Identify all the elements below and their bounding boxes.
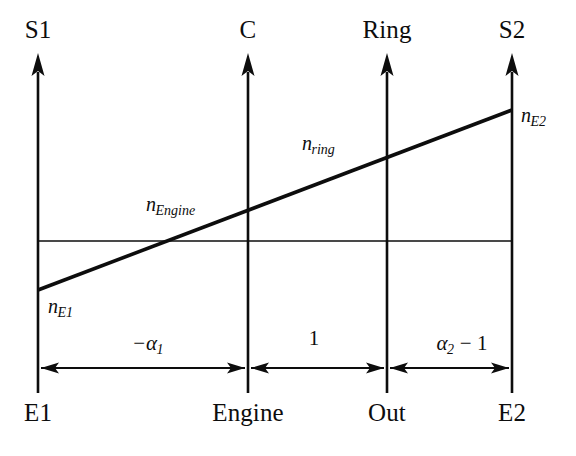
speed-label-n-ring: nring (302, 133, 335, 153)
axis-ring (381, 53, 394, 393)
axis-bottom-label-e2: E2 (498, 400, 526, 425)
speed-label-sub-n-e2: E2 (531, 114, 547, 129)
speed-label-sub-n-engine: Engine (156, 203, 196, 218)
dimension-label-prefix-alpha2minus1: α (437, 331, 448, 355)
dimension-label-alpha1: −α1 (132, 333, 164, 354)
speed-label-base-n-engine: n (146, 193, 156, 215)
dimension-label-sub-alpha1: 1 (157, 342, 164, 357)
lever-diagram-figure: S1 C Ring S2 E1 Engine Out E2 nE1 nEngin… (0, 0, 576, 456)
speed-label-n-engine: nEngine (146, 194, 196, 214)
diagram-canvas (0, 0, 576, 456)
dimension-label-alpha2minus1: α2 − 1 (437, 333, 488, 354)
dimension-label-one: 1 (309, 328, 320, 349)
speed-label-sub-n-ring: ring (312, 142, 335, 157)
speed-label-base-n-ring: n (302, 132, 312, 154)
speed-label-n-e1: nE1 (48, 296, 74, 316)
axis-top-label-ring: Ring (362, 17, 411, 42)
axis-top-label-s1: S1 (25, 17, 52, 42)
axis-s1 (32, 53, 45, 393)
axis-bottom-label-e1: E1 (24, 400, 52, 425)
dimension-label-suffix-alpha2minus1: − 1 (455, 331, 488, 355)
lever-line (38, 110, 512, 290)
axis-c (242, 53, 255, 393)
speed-label-n-e2: nE2 (521, 105, 547, 125)
dimension-label-prefix-alpha1: −α (132, 331, 157, 355)
dimension-label-sub-alpha2minus1: 2 (447, 342, 454, 357)
axis-bottom-label-engine: Engine (212, 400, 283, 425)
dimension-label-prefix-one: 1 (309, 326, 320, 350)
axis-top-label-c: C (240, 17, 257, 42)
speed-label-sub-n-e1: E1 (58, 305, 74, 320)
axis-s2 (506, 53, 519, 393)
speed-label-base-n-e2: n (521, 104, 531, 126)
axis-top-label-s2: S2 (499, 17, 526, 42)
axis-bottom-label-out: Out (368, 400, 406, 425)
speed-label-base-n-e1: n (48, 295, 58, 317)
